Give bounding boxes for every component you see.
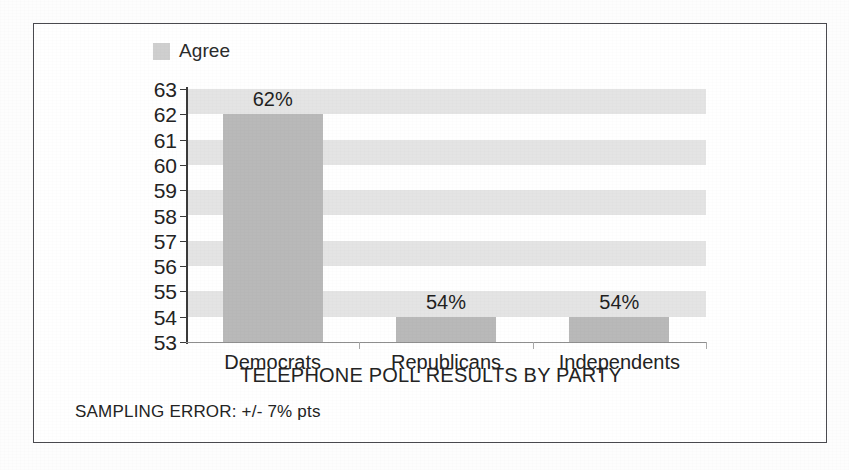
legend-label-agree: Agree [179, 40, 230, 62]
y-axis-tick-label: 63 [154, 79, 177, 100]
bar-value-label: 62% [253, 89, 293, 109]
chart-legend: Agree [153, 40, 230, 62]
y-axis-tick-label: 56 [154, 256, 177, 277]
plot-area: 6362616059585756555453 62%54%54% Democra… [186, 89, 706, 342]
y-axis-tick [180, 266, 186, 267]
scanned-page: Agree 6362616059585756555453 62%54%54% D… [0, 0, 849, 470]
y-axis-tick [180, 216, 186, 217]
bar [223, 114, 323, 342]
sampling-error-footnote: SAMPLING ERROR: +/- 7% pts [75, 402, 321, 422]
y-axis-tick-label: 59 [154, 180, 177, 201]
x-axis-line [186, 342, 707, 343]
x-axis-title: TELEPHONE POLL RESULTS BY PARTY [34, 364, 828, 387]
y-axis-tick [180, 190, 186, 191]
y-axis-tick-label: 61 [154, 129, 177, 150]
y-axis-tick-label: 54 [154, 306, 177, 327]
bar [396, 317, 496, 342]
y-axis-tick-label: 57 [154, 230, 177, 251]
y-axis-tick [180, 140, 186, 141]
bar-value-label: 54% [426, 292, 466, 312]
y-axis-tick [180, 291, 186, 292]
y-axis-tick [180, 317, 186, 318]
y-axis-tick [180, 89, 186, 90]
legend-swatch-agree [153, 43, 170, 60]
y-axis-tick [180, 342, 186, 343]
axis-end-tick [706, 342, 707, 349]
y-axis-tick-label: 53 [154, 332, 177, 353]
y-axis-line [186, 87, 188, 344]
y-axis-tick [180, 241, 186, 242]
y-axis-tick [180, 114, 186, 115]
y-axis-tick-label: 60 [154, 154, 177, 175]
y-axis-tick [180, 165, 186, 166]
bar-value-label: 54% [599, 292, 639, 312]
bar [569, 317, 669, 342]
y-axis-tick-label: 55 [154, 281, 177, 302]
category-separator-tick [533, 342, 534, 349]
category-separator-tick [359, 342, 360, 349]
chart-frame: Agree 6362616059585756555453 62%54%54% D… [33, 23, 827, 443]
y-axis-tick-label: 58 [154, 205, 177, 226]
y-axis-tick-label: 62 [154, 104, 177, 125]
